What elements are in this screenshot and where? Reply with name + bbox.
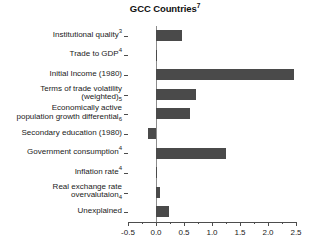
bar-institutional-quality bbox=[156, 30, 182, 41]
bar-row: Real exchange rateovervalutaion4 bbox=[0, 183, 330, 203]
footnote-marker: 4 bbox=[119, 47, 122, 53]
x-axis-tick-label: 0.0 bbox=[141, 228, 171, 237]
footnote-marker: 5 bbox=[119, 96, 122, 102]
chart-title-footnote-marker: 7 bbox=[197, 2, 201, 9]
bar-real-exchange-rate-overvaluation bbox=[156, 187, 160, 198]
category-label-line: Institutional quality bbox=[53, 30, 119, 39]
bar-inflation-rate bbox=[156, 167, 157, 178]
bar-row: Government consumption4 bbox=[0, 144, 330, 164]
bar-row: Inflation rate4 bbox=[0, 163, 330, 183]
bar-row: Institutional quality3 bbox=[0, 26, 330, 46]
chart-title: GCC Countries7 bbox=[0, 3, 330, 14]
bar-secondary-education bbox=[148, 128, 156, 139]
x-axis-minor-tick bbox=[198, 222, 199, 224]
x-axis-minor-tick bbox=[254, 222, 255, 224]
category-label: Initial Income (1980) bbox=[0, 70, 122, 79]
category-label-line: Initial Income (1980) bbox=[50, 69, 122, 78]
chart-title-text: GCC Countries bbox=[130, 3, 197, 14]
bar-chart: GCC Countries7 Institutional quality3 Tr… bbox=[0, 0, 330, 245]
x-axis-tick bbox=[296, 222, 297, 226]
bar-terms-of-trade-volatility bbox=[156, 89, 196, 100]
x-axis-tick-label: 1.0 bbox=[197, 228, 227, 237]
bar-row: Trade to GDP4 bbox=[0, 46, 330, 66]
category-label-line: Inflation rate bbox=[75, 167, 119, 176]
category-label-line: overvalutaion bbox=[71, 190, 119, 199]
bar-row: Unexplained bbox=[0, 202, 330, 222]
bar-row: Initial Income (1980) bbox=[0, 65, 330, 85]
bar-initial-income bbox=[156, 69, 294, 80]
x-axis-tick bbox=[184, 222, 185, 226]
category-tick bbox=[124, 173, 128, 174]
x-axis-minor-tick bbox=[142, 222, 143, 224]
x-axis-tick-label: 0.5 bbox=[169, 228, 199, 237]
category-label: Secondary education (1980) bbox=[0, 129, 122, 138]
category-label-line: Trade to GDP bbox=[70, 49, 119, 58]
footnote-marker: 4 bbox=[119, 145, 122, 151]
x-axis-tick bbox=[128, 222, 129, 226]
category-label-line: Secondary education (1980) bbox=[21, 128, 122, 137]
category-tick bbox=[124, 75, 128, 76]
category-label-line: population growth differential bbox=[17, 112, 119, 121]
x-axis-minor-tick bbox=[282, 222, 283, 224]
x-axis-tick bbox=[212, 222, 213, 226]
x-axis-tick-label: 2.5 bbox=[281, 228, 311, 237]
bar-row: Economically activepopulation growth dif… bbox=[0, 104, 330, 124]
bar-row: Secondary education (1980) bbox=[0, 124, 330, 144]
x-axis-tick bbox=[240, 222, 241, 226]
footnote-marker: 4 bbox=[119, 165, 122, 171]
category-label: Real exchange rateovervalutaion4 bbox=[0, 183, 122, 200]
category-tick bbox=[124, 153, 128, 154]
category-tick bbox=[124, 55, 128, 56]
category-label: Unexplained bbox=[0, 207, 122, 216]
category-label-line: Government consumption bbox=[27, 147, 119, 156]
x-axis-minor-tick bbox=[226, 222, 227, 224]
category-tick bbox=[124, 193, 128, 194]
category-label: Inflation rate4 bbox=[0, 168, 122, 177]
category-label: Economically activepopulation growth dif… bbox=[0, 104, 122, 121]
x-axis-tick bbox=[268, 222, 269, 226]
x-axis-tick-label: 2.0 bbox=[253, 228, 283, 237]
footnote-marker: 4 bbox=[119, 194, 122, 200]
category-label-line: (weighted) bbox=[81, 92, 118, 101]
x-axis-tick-label: 1.5 bbox=[225, 228, 255, 237]
category-label: Terms of trade volatility(weighted)5 bbox=[0, 85, 122, 102]
bar-row: Terms of trade volatility(weighted)5 bbox=[0, 85, 330, 105]
footnote-marker: 3 bbox=[119, 28, 122, 34]
bar-trade-to-gdp bbox=[156, 50, 157, 61]
category-tick bbox=[124, 134, 128, 135]
category-label-line: Unexplained bbox=[78, 206, 122, 215]
category-tick bbox=[124, 114, 128, 115]
x-axis-minor-tick bbox=[170, 222, 171, 224]
category-tick bbox=[124, 95, 128, 96]
category-tick bbox=[124, 36, 128, 37]
footnote-marker: 6 bbox=[119, 116, 122, 122]
bar-economically-active-population-growth-differential bbox=[156, 108, 190, 119]
category-label: Government consumption4 bbox=[0, 148, 122, 157]
category-label: Trade to GDP4 bbox=[0, 50, 122, 59]
x-axis-tick bbox=[156, 222, 157, 226]
category-tick bbox=[124, 212, 128, 213]
bar-unexplained bbox=[156, 206, 169, 217]
bar-government-consumption bbox=[156, 148, 226, 159]
category-label: Institutional quality3 bbox=[0, 31, 122, 40]
x-axis-tick-label: -0.5 bbox=[113, 228, 143, 237]
